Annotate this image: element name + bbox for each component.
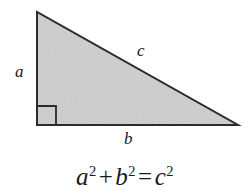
equation-term-b: b: [115, 163, 128, 190]
equation-exponent-c: 2: [166, 163, 174, 179]
side-label-a: a: [15, 63, 24, 80]
equation-plus-operator: +: [97, 163, 116, 190]
equation-term-a: a: [76, 163, 89, 190]
equation-exponent-a: 2: [89, 163, 97, 179]
pythagorean-theorem-figure: a c b a2+b2=c2: [0, 0, 250, 194]
equation-equals-operator: =: [136, 163, 155, 190]
side-label-b: b: [124, 130, 133, 147]
pythagorean-equation: a2+b2=c2: [0, 163, 250, 192]
equation-term-c: c: [155, 163, 167, 190]
equation-exponent-b: 2: [128, 163, 136, 179]
side-label-c: c: [137, 42, 145, 59]
